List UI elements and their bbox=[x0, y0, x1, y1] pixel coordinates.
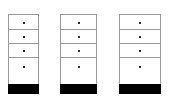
cabinet-1 bbox=[8, 14, 39, 94]
drawer-knob-icon bbox=[78, 36, 80, 38]
drawer-knob-icon bbox=[23, 22, 25, 24]
drawer-3 bbox=[60, 43, 97, 57]
drawer-knob-icon bbox=[139, 66, 141, 68]
drawer-2 bbox=[8, 29, 39, 43]
drawer-knob-icon bbox=[78, 22, 80, 24]
drawer-3 bbox=[119, 43, 161, 57]
drawer-knob-icon bbox=[139, 22, 141, 24]
cabinet-3 bbox=[119, 14, 161, 94]
drawer-knob-icon bbox=[23, 50, 25, 52]
cabinet-base bbox=[119, 84, 161, 94]
drawer-knob-icon bbox=[23, 36, 25, 38]
drawer-4 bbox=[60, 57, 97, 84]
drawer-1 bbox=[119, 14, 161, 29]
drawer-knob-icon bbox=[23, 66, 25, 68]
drawer-knob-icon bbox=[78, 50, 80, 52]
drawer-1 bbox=[8, 14, 39, 29]
cabinet-base bbox=[8, 84, 39, 94]
drawer-1 bbox=[60, 14, 97, 29]
drawer-2 bbox=[119, 29, 161, 43]
drawer-knob-icon bbox=[139, 50, 141, 52]
cabinet-base bbox=[60, 84, 97, 94]
drawer-4 bbox=[8, 57, 39, 84]
drawer-knob-icon bbox=[78, 66, 80, 68]
drawer-4 bbox=[119, 57, 161, 84]
drawer-2 bbox=[60, 29, 97, 43]
cabinet-2 bbox=[60, 14, 97, 94]
drawer-knob-icon bbox=[139, 36, 141, 38]
drawer-3 bbox=[8, 43, 39, 57]
